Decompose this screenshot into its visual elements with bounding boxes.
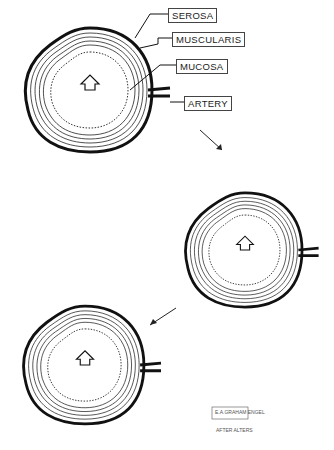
signature-credit: AFTER ALTERS: [216, 427, 253, 433]
signature-box-text: E.A.GRAHAM ENGEL: [215, 409, 265, 415]
stage-3-diagram: [23, 306, 161, 424]
label-artery: ARTERY: [184, 96, 232, 111]
label-mucosa: MUCOSA: [176, 59, 228, 74]
diverticulum-diagram: [0, 0, 334, 450]
label-serosa: SEROSA: [168, 8, 217, 23]
label-muscularis: MUSCULARIS: [172, 32, 245, 47]
stage-2-diagram: [185, 193, 318, 307]
